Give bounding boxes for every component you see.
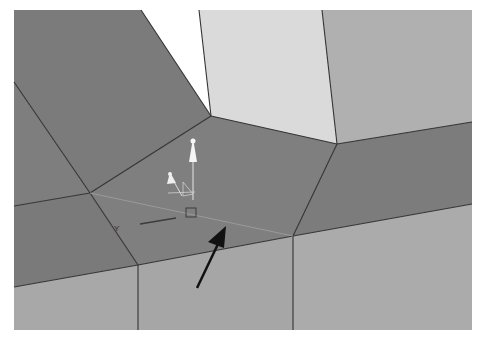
- mesh-faces: [14, 10, 472, 330]
- 3d-viewport[interactable]: Y: [0, 0, 481, 347]
- gizmo-y-label: Y: [114, 224, 120, 233]
- mesh-canvas[interactable]: Y: [0, 0, 481, 347]
- face-right-upper[interactable]: [322, 10, 472, 144]
